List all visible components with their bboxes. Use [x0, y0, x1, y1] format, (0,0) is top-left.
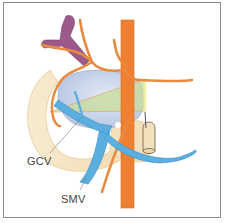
aorta — [121, 20, 134, 208]
highlight-node — [115, 122, 121, 128]
label-gcv: GCV — [27, 155, 51, 167]
anatomy-illustration — [0, 0, 228, 223]
purple-vessel — [42, 15, 90, 66]
gallbladder — [143, 112, 155, 154]
label-smv: SMV — [61, 193, 85, 205]
